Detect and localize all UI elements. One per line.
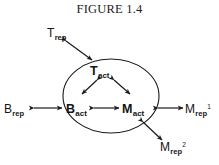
node-base-t-act: T [90,64,98,78]
edge-tact-bact [82,80,97,94]
node-label-b-act: Bact [66,100,87,116]
node-sub-t-act: act [98,71,110,80]
node-label-m-rep-2: Mrep2 [160,138,185,154]
node-sub-b-rep: rep [12,109,24,118]
node-label-t-act: Tact [90,62,109,78]
node-base-m-act: M [122,102,132,116]
node-label-m-act: Mact [122,100,144,116]
node-sub-b-act: act [75,109,87,118]
node-label-b-rep: Brep [4,100,24,116]
node-base-m-rep-1: M [185,102,195,116]
node-base-b-act: B [66,102,75,116]
node-base-m-rep-2: M [160,140,170,154]
edge-tact-mact [114,80,130,94]
edge-trep-tact [66,41,92,60]
node-sup-m-rep-2: 2 [182,141,186,148]
node-sub-t-rep: rep [55,33,67,42]
figure-container: FIGURE 1.4 T_act (diagonal) --> B_act (d… [0,0,219,165]
node-base-t-rep: T [47,26,54,40]
node-sub-m-rep-1: rep [195,109,207,118]
node-sup-m-rep-1: 1 [207,103,211,110]
node-sub-m-rep-2: rep [170,147,182,156]
diagram-canvas: T_act (diagonal) --> B_act (diagonal dow… [0,0,219,165]
node-label-t-rep: Trep [47,24,66,40]
node-sub-m-act: act [133,109,145,118]
node-base-b-rep: B [4,102,12,116]
system-boundary-ellipse [63,59,159,133]
node-label-m-rep-1: Mrep1 [185,100,210,116]
